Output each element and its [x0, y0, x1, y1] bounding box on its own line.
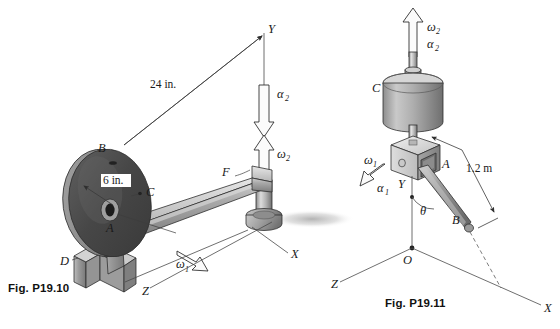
label-B-right: B [452, 213, 460, 227]
vector-omega1-left-subscript: 1 [185, 265, 189, 274]
rod-ab [418, 165, 474, 232]
axis-z-right-label: Z [331, 277, 339, 291]
dimension-24in: 24 in. [124, 36, 262, 145]
axis-x-left-label: X [290, 247, 300, 261]
label-O-right: O [403, 253, 412, 267]
projection-line-b [470, 232, 501, 288]
motor-cylinder [383, 73, 443, 132]
vector-alpha2-left-subscript: 2 [285, 94, 289, 103]
axis-y-right: Y [398, 176, 414, 248]
vector-omega2-left-subscript: 2 [286, 154, 290, 163]
figure-sheet: Y 24 in. α 2 ω 2 [0, 0, 560, 329]
vector-omega2-right-symbol: ω [427, 20, 436, 34]
dimension-1-2m-label: 1.2 m [466, 162, 492, 174]
vector-omega2-right: ω 2 α 2 [403, 8, 440, 57]
label-D-left-text: D [59, 254, 69, 268]
floor-shadow [270, 210, 354, 228]
hub-A [101, 199, 119, 221]
angle-theta-label: θ [420, 204, 426, 218]
vector-omega1-right: ω 1 α 1 [360, 153, 389, 197]
angle-theta: θ [412, 197, 434, 218]
axis-y-right-label: Y [398, 177, 407, 191]
vector-omega1-right-subscript: 1 [373, 160, 377, 169]
vector-alpha2-left: α 2 [254, 85, 289, 137]
axis-y-left-label: Y [268, 22, 277, 36]
vector-alpha2-left-symbol: α [277, 87, 284, 101]
dimension-6in-label: 6 in. [103, 174, 124, 186]
figure-p19-10: Y 24 in. α 2 ω 2 [8, 22, 354, 298]
vector-omega2-left-symbol: ω [277, 147, 286, 161]
axis-x-right-label: X [543, 301, 553, 315]
vector-alpha1-right-symbol: α [377, 181, 384, 195]
label-C-right: C [372, 81, 381, 95]
axis-z-right: Z [331, 248, 412, 291]
axis-x-left: X [252, 227, 300, 261]
vector-alpha2-right-symbol: α [427, 37, 434, 51]
vector-omega1-right-symbol: ω [364, 153, 373, 167]
caption-p19-11: Fig. P19.11 [385, 297, 446, 309]
label-F-left-text: F [221, 165, 230, 179]
vector-alpha2-right-subscript: 2 [435, 44, 439, 53]
label-A-left: A [105, 221, 114, 235]
label-B-left-text: B [98, 141, 106, 155]
dimension-24in-label: 24 in. [150, 78, 176, 90]
label-A-right: A [441, 157, 450, 171]
vector-omega1-left-symbol: ω [176, 257, 185, 271]
caption-p19-10: Fig. P19.10 [8, 282, 69, 294]
axis-z-left-label: Z [142, 284, 150, 298]
label-B-left: B [98, 141, 106, 155]
vector-omega1-left: ω 1 [176, 251, 208, 274]
label-C-left-text: C [146, 185, 155, 199]
figure-p19-11: ω 2 α 2 C [331, 8, 553, 315]
label-F-left: F [221, 165, 250, 179]
vector-omega2-right-subscript: 2 [436, 27, 440, 36]
vector-alpha1-right-subscript: 1 [385, 188, 389, 197]
axis-z-left: Z [142, 222, 272, 298]
hole-B [109, 161, 117, 165]
